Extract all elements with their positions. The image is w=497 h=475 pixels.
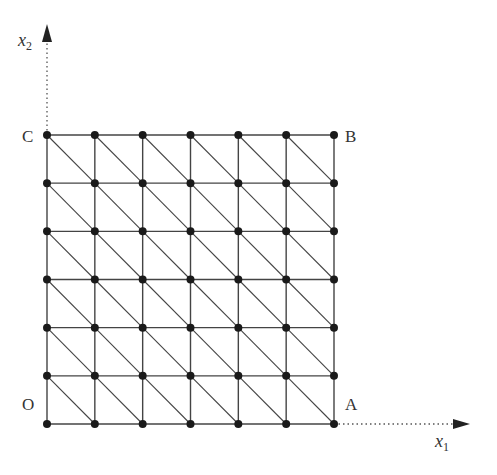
label-a: A [345,395,358,414]
diagonal-edge [47,135,95,183]
diagonal-edge [95,328,143,376]
diagonal-edge [238,231,286,279]
diagonal-edge [191,231,239,279]
diagonal-edge [238,328,286,376]
diagonal-edge [191,328,239,376]
x1-arrow-icon [453,419,470,429]
mesh-node [234,372,242,380]
mesh-node [282,179,290,187]
label-o: O [22,395,34,414]
mesh-node [43,179,51,187]
x2-axis-label: x2 [17,30,32,53]
diagonal-edge [47,280,95,328]
x2-arrow-icon [42,24,52,42]
mesh-diagram: C B O A x2 x1 [0,0,497,475]
diagonal-edge [238,376,286,424]
mesh-node [91,420,99,428]
mesh-node [330,227,338,235]
diagonal-edge [143,328,191,376]
mesh-node [234,179,242,187]
mesh-node [187,324,195,332]
mesh-node [234,324,242,332]
diagonal-edge [238,183,286,231]
mesh-node [91,324,99,332]
diagonal-edge [47,328,95,376]
mesh-node [187,131,195,139]
mesh-node [330,131,338,139]
mesh-node [43,276,51,284]
diagonal-edge [286,231,334,279]
mesh-node [91,227,99,235]
mesh-node [234,227,242,235]
diagonal-edge [191,376,239,424]
diagonal-edge [191,183,239,231]
diagonal-edge [286,328,334,376]
mesh-node [282,372,290,380]
diagonal-edge [286,376,334,424]
diagonal-edge [143,231,191,279]
mesh-node [187,179,195,187]
mesh-node [330,179,338,187]
axes [42,24,470,429]
mesh-node [43,131,51,139]
diagonal-edge [143,183,191,231]
diagonal-edge [95,280,143,328]
mesh-node [43,420,51,428]
diagonal-edge [143,135,191,183]
mesh-node [43,324,51,332]
mesh-node [43,227,51,235]
x1-axis-label: x1 [434,431,449,454]
mesh-node [234,276,242,284]
mesh-node [139,372,147,380]
diagonal-edge [286,183,334,231]
mesh-node [43,372,51,380]
label-c: C [22,127,33,146]
diagonal-edge [286,135,334,183]
diagonal-edge [47,231,95,279]
mesh-node [139,276,147,284]
mesh-node [187,420,195,428]
mesh-node [139,420,147,428]
diagonal-edge [191,280,239,328]
mesh-node [282,276,290,284]
mesh-node [234,420,242,428]
diagonal-edge [47,183,95,231]
diagonal-edge [191,135,239,183]
mesh-node [330,420,338,428]
mesh-node [91,372,99,380]
diagonal-edge [95,135,143,183]
diagonal-edge [95,376,143,424]
mesh-node [91,276,99,284]
mesh-node [91,179,99,187]
mesh-node [187,227,195,235]
label-b: B [345,127,356,146]
mesh-node [139,324,147,332]
diagonal-edge [238,135,286,183]
mesh-node [139,227,147,235]
diagonal-edge [95,183,143,231]
diagonal-edge [143,280,191,328]
mesh-node [282,131,290,139]
diagonal-edge [143,376,191,424]
mesh-node [282,324,290,332]
mesh-node [330,276,338,284]
mesh-node [187,372,195,380]
mesh-node [282,420,290,428]
mesh-node [91,131,99,139]
mesh-node [139,179,147,187]
mesh-node [234,131,242,139]
diagonal-edge [47,376,95,424]
diagonal-edge [286,280,334,328]
diagonal-edge [95,231,143,279]
mesh-node [139,131,147,139]
mesh-node [330,324,338,332]
mesh-node [330,372,338,380]
diagonal-edge [238,280,286,328]
mesh-node [187,276,195,284]
mesh-node [282,227,290,235]
